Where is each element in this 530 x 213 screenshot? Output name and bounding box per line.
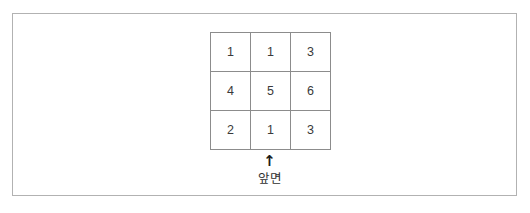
grid-cell-r0c1: 1: [251, 33, 291, 72]
grid-cell-r2c2: 3: [291, 111, 331, 150]
grid-cell-r2c0: 2: [211, 111, 251, 150]
table-row: 2 1 3: [211, 111, 331, 150]
figure-frame: 1 1 3 4 5 6 2 1 3 ↑ 앞면: [12, 13, 517, 196]
grid-cell-r2c1: 1: [251, 111, 291, 150]
table-row: 1 1 3: [211, 33, 331, 72]
figure-stack: 1 1 3 4 5 6 2 1 3 ↑ 앞면: [212, 32, 329, 187]
grid-cell-r1c2: 6: [291, 72, 331, 111]
arrow-up-icon: ↑: [263, 154, 276, 170]
grid-cell-r1c1: 5: [251, 72, 291, 111]
grid-cell-r0c0: 1: [211, 33, 251, 72]
grid-cell-r0c2: 3: [291, 33, 331, 72]
front-side-caption: 앞면: [258, 172, 282, 187]
table-row: 4 5 6: [211, 72, 331, 111]
number-grid: 1 1 3 4 5 6 2 1 3: [210, 32, 331, 150]
grid-cell-r1c0: 4: [211, 72, 251, 111]
